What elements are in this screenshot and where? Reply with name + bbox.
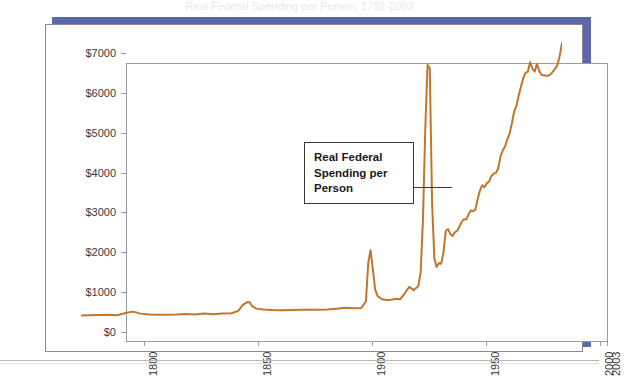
chart-card: $0$1000$2000$3000$4000$5000$6000$7000 18… [45, 24, 583, 352]
y-axis-tick-mark [121, 53, 126, 54]
y-axis-tick-mark [121, 173, 126, 174]
annotation-leader-line [414, 187, 452, 188]
y-axis-tick-mark [121, 332, 126, 333]
y-axis: $0$1000$2000$3000$4000$5000$6000$7000 [46, 55, 122, 350]
y-axis-tick-label: $5000 [46, 128, 122, 139]
y-axis-tick-mark [121, 133, 126, 134]
x-axis-tick-mark [600, 342, 601, 346]
x-axis-tick-mark [607, 342, 608, 346]
y-axis-tick-label: $6000 [46, 88, 122, 99]
y-axis-tick-label: $0 [46, 327, 122, 338]
x-axis-tick-label: 2003 [611, 352, 622, 376]
x-axis-tick-mark [486, 342, 487, 346]
x-axis-tick-mark [372, 342, 373, 346]
y-axis-tick-label: $3000 [46, 207, 122, 218]
annotation-line-2: Spending per [314, 166, 413, 182]
x-axis-tick-mark [144, 342, 145, 346]
y-axis-tick-mark [121, 292, 126, 293]
y-axis-tick-mark [121, 93, 126, 94]
annotation-line-3: Person [314, 181, 413, 197]
y-axis-tick-label: $7000 [46, 48, 122, 59]
x-axis-tick-mark [258, 342, 259, 346]
footer-divider-shadow [0, 363, 599, 364]
y-axis-tick-label: $1000 [46, 287, 122, 298]
y-axis-tick-label: $4000 [46, 168, 122, 179]
y-axis-tick-mark [121, 252, 126, 253]
y-axis-tick-label: $2000 [46, 247, 122, 258]
clipped-caption-strip: Real Federal Spending per Person, 1792-2… [0, 0, 599, 13]
footer-divider [0, 360, 599, 361]
annotation-callout-box: Real Federal Spending per Person [304, 142, 414, 204]
annotation-line-1: Real Federal [314, 150, 413, 166]
y-axis-tick-mark [121, 212, 126, 213]
